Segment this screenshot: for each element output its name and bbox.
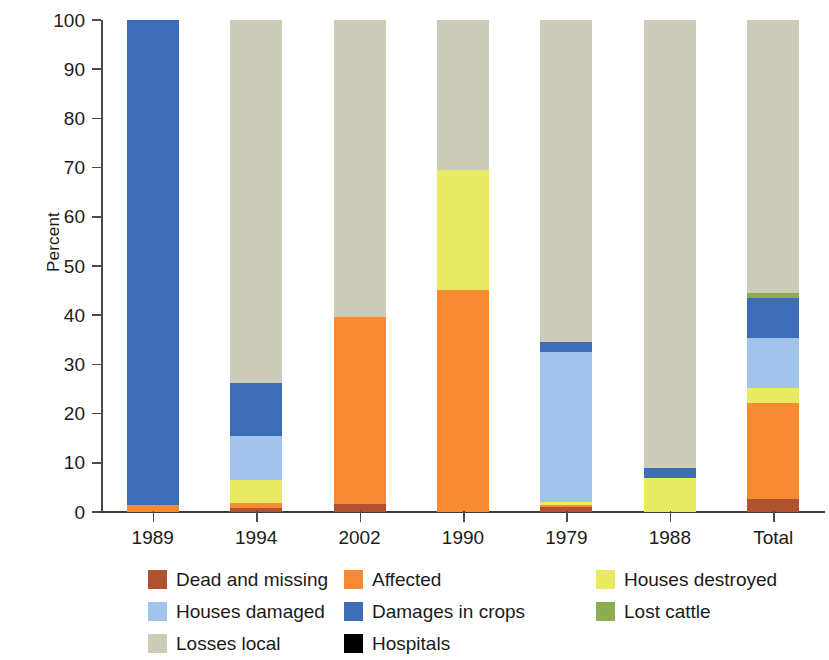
legend-row: Losses localHospitals: [148, 629, 808, 660]
legend-label: Dead and missing: [176, 570, 328, 589]
y-tick-mark: [92, 19, 101, 21]
legend-item-dead-and-missing[interactable]: Dead and missing: [148, 565, 344, 593]
y-tick-mark: [92, 216, 101, 218]
legend-swatch-icon: [344, 634, 363, 653]
legend-item-damages-in-crops[interactable]: Damages in crops: [344, 597, 596, 625]
y-tick-mark: [92, 413, 101, 415]
y-tick-label: 40: [64, 306, 92, 325]
segment-houses-destroyed: [540, 502, 592, 505]
segment-affected: [230, 503, 282, 508]
x-axis-label-1988: 1988: [610, 527, 730, 549]
legend-item-houses-destroyed[interactable]: Houses destroyed: [596, 565, 777, 593]
y-axis-ticks: 0102030405060708090100: [0, 0, 101, 660]
bar-1989: [127, 20, 179, 512]
legend-item-lost-cattle[interactable]: Lost cattle: [596, 597, 711, 625]
segment-damages-in-crops: [540, 342, 592, 352]
segment-houses-destroyed: [644, 478, 696, 512]
legend-item-hospitals[interactable]: Hospitals: [344, 629, 596, 657]
y-tick-label: 80: [64, 109, 92, 128]
bar-1990: [437, 20, 489, 512]
x-tick-1989: [153, 511, 155, 522]
legend-item-houses-damaged[interactable]: Houses damaged: [148, 597, 344, 625]
y-tick-mark: [92, 462, 101, 464]
y-tick-label: 10: [64, 453, 92, 472]
segment-losses-local: [230, 20, 282, 383]
segment-losses-local: [540, 20, 592, 342]
legend-row: Dead and missingAffectedHouses destroyed: [148, 565, 808, 597]
x-tick-1990: [463, 511, 465, 522]
y-tick-mark: [92, 511, 101, 513]
bar-stack: [747, 20, 799, 512]
bar-Total: [747, 20, 799, 512]
segment-losses-local: [644, 20, 696, 468]
bar-stack: [127, 20, 179, 512]
segment-losses-local: [747, 20, 799, 293]
legend-label: Losses local: [176, 634, 281, 653]
segment-affected: [437, 290, 489, 512]
x-axis-label-1989: 1989: [93, 527, 213, 549]
y-tick-mark: [92, 314, 101, 316]
x-axis-label-Total: Total: [713, 527, 829, 549]
x-axis-label-2002: 2002: [300, 527, 420, 549]
segment-affected: [747, 403, 799, 499]
y-tick-label: 60: [64, 207, 92, 226]
y-tick-mark: [92, 68, 101, 70]
x-axis-label-1979: 1979: [506, 527, 626, 549]
bar-stack: [230, 20, 282, 512]
segment-lost-cattle: [747, 293, 799, 297]
legend-swatch-icon: [596, 570, 615, 589]
segment-affected: [334, 317, 386, 504]
y-tick-label: 90: [64, 60, 92, 79]
bar-stack: [437, 20, 489, 512]
legend-label: Lost cattle: [624, 602, 711, 621]
segment-houses-destroyed: [230, 480, 282, 504]
segment-houses-damaged: [747, 338, 799, 388]
x-tick-1979: [566, 511, 568, 522]
bar-stack: [540, 20, 592, 512]
x-tick-2002: [360, 511, 362, 522]
chart-legend: Dead and missingAffectedHouses destroyed…: [148, 565, 808, 660]
segment-losses-local: [437, 20, 489, 170]
segment-houses-damaged: [230, 436, 282, 479]
legend-label: Damages in crops: [372, 602, 525, 621]
legend-item-losses-local[interactable]: Losses local: [148, 629, 344, 657]
y-tick-mark: [92, 364, 101, 366]
x-axis-label-1990: 1990: [403, 527, 523, 549]
y-tick-label: 0: [74, 503, 92, 522]
legend-label: Hospitals: [372, 634, 450, 653]
y-tick-mark: [92, 265, 101, 267]
segment-houses-destroyed: [437, 170, 489, 290]
legend-row: Houses damagedDamages in cropsLost cattl…: [148, 597, 808, 629]
legend-swatch-icon: [148, 634, 167, 653]
y-tick-mark: [92, 167, 101, 169]
y-tick-label: 20: [64, 404, 92, 423]
legend-swatch-icon: [148, 570, 167, 589]
y-tick-label: 30: [64, 355, 92, 374]
legend-label: Houses damaged: [176, 602, 325, 621]
y-tick-label: 50: [64, 257, 92, 276]
x-tick-1994: [256, 511, 258, 522]
y-tick-label: 100: [53, 11, 92, 30]
bar-1988: [644, 20, 696, 512]
x-axis-label-1994: 1994: [196, 527, 316, 549]
legend-swatch-icon: [344, 570, 363, 589]
legend-swatch-icon: [148, 602, 167, 621]
segment-damages-in-crops: [747, 298, 799, 338]
x-tick-Total: [773, 511, 775, 522]
bar-stack: [334, 20, 386, 512]
plot-area: [101, 20, 825, 512]
bar-1994: [230, 20, 282, 512]
bar-1979: [540, 20, 592, 512]
segment-losses-local: [334, 20, 386, 317]
stacked-bar-chart: Percent 0102030405060708090100 198919942…: [0, 0, 829, 660]
y-tick-mark: [92, 118, 101, 120]
segment-damages-in-crops: [230, 383, 282, 437]
y-tick-label: 70: [64, 158, 92, 177]
segment-houses-damaged: [540, 352, 592, 502]
segment-houses-destroyed: [747, 388, 799, 403]
bar-2002: [334, 20, 386, 512]
legend-item-affected[interactable]: Affected: [344, 565, 596, 593]
legend-label: Houses destroyed: [624, 570, 777, 589]
legend-label: Affected: [372, 570, 441, 589]
legend-swatch-icon: [596, 602, 615, 621]
